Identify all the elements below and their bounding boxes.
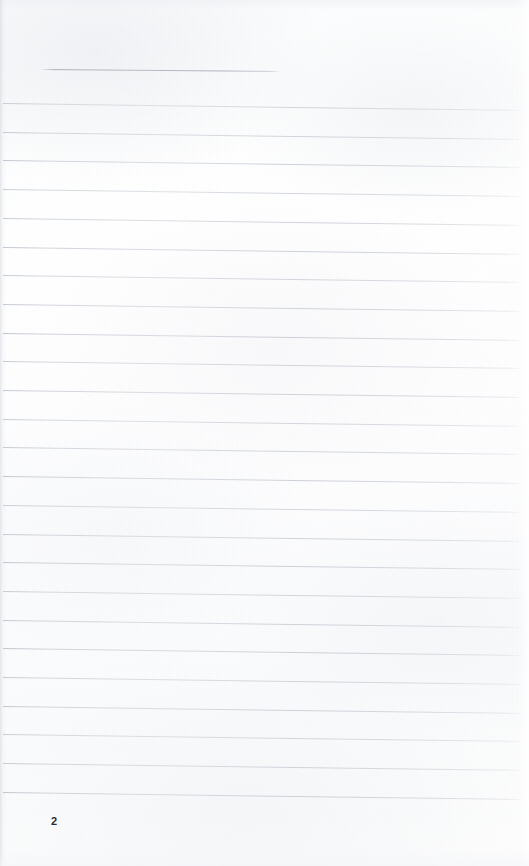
header-divider-rule (42, 69, 280, 72)
scanned-page: 2 (0, 0, 529, 866)
ruled-line (3, 247, 522, 255)
ruled-line (3, 333, 522, 341)
ruled-line (3, 648, 522, 656)
ruled-line (3, 706, 522, 714)
ruled-line (3, 103, 522, 111)
page-edge-bottom (0, 848, 529, 866)
ruled-line (3, 562, 522, 570)
ruled-line (3, 763, 522, 771)
ruled-line (3, 275, 522, 283)
ruled-line (3, 419, 522, 427)
ruled-line (3, 160, 522, 168)
ruled-line (3, 677, 522, 685)
ruled-line (3, 361, 522, 369)
ruled-line (3, 304, 522, 312)
ruled-line (3, 390, 522, 398)
ruled-line (3, 505, 522, 513)
ruled-line (3, 476, 522, 484)
paper-grain-texture (0, 0, 529, 866)
ruled-line (3, 792, 522, 800)
ruled-line (3, 534, 522, 542)
ruled-line (3, 447, 522, 455)
page-edge-top (0, 0, 529, 10)
paper-background (0, 0, 529, 866)
page-edge-left (0, 0, 7, 866)
ruled-line (3, 734, 522, 742)
ruled-line (3, 218, 522, 226)
page-number: 2 (51, 816, 57, 827)
ruled-line (3, 189, 522, 197)
ruled-line (3, 132, 522, 140)
ruled-line (3, 591, 522, 599)
page-edge-right (517, 0, 529, 866)
ruled-line (3, 620, 522, 628)
